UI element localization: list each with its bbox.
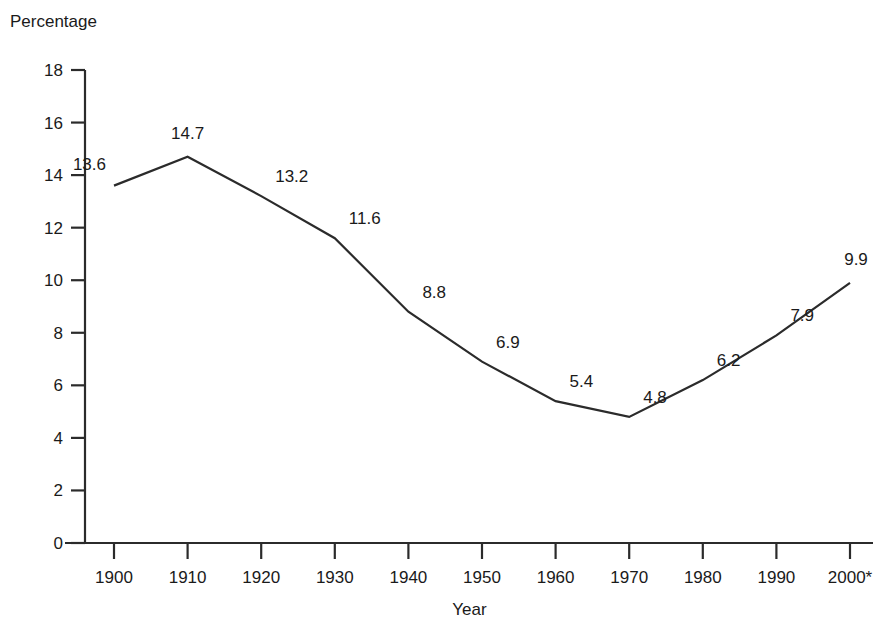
line-chart: Percentage Year 024681012141618 19001910… xyxy=(0,0,895,641)
x-tick-label-2000star: 2000* xyxy=(828,568,873,587)
y-tick-label-8: 8 xyxy=(54,324,63,343)
x-tick-label-1920: 1920 xyxy=(242,568,280,587)
data-point-label-1920: 13.2 xyxy=(275,167,308,186)
x-tick-label-1940: 1940 xyxy=(389,568,427,587)
x-tick-label-1950: 1950 xyxy=(463,568,501,587)
chart-plot-area: 024681012141618 190019101920193019401950… xyxy=(0,0,895,641)
y-tick-label-0: 0 xyxy=(54,534,63,553)
y-tick-label-16: 16 xyxy=(44,114,63,133)
y-tick-label-6: 6 xyxy=(54,376,63,395)
y-tick-label-18: 18 xyxy=(44,61,63,80)
data-point-label-1960: 5.4 xyxy=(570,372,594,391)
data-point-label-1930: 11.6 xyxy=(349,209,381,228)
data-point-labels: 13.614.713.211.68.86.95.44.86.27.99.9 xyxy=(73,124,868,407)
data-point-label-1940: 8.8 xyxy=(422,283,446,302)
data-point-label-1910: 14.7 xyxy=(171,124,204,143)
x-tick-label-1970: 1970 xyxy=(610,568,648,587)
y-axis-tick-labels: 024681012141618 xyxy=(44,61,63,553)
y-axis-ticks xyxy=(71,70,85,543)
x-tick-label-1900: 1900 xyxy=(95,568,133,587)
x-tick-label-1960: 1960 xyxy=(537,568,575,587)
data-point-label-1990: 7.9 xyxy=(790,306,814,325)
x-tick-label-1980: 1980 xyxy=(684,568,722,587)
data-series-line xyxy=(114,157,850,417)
y-tick-label-14: 14 xyxy=(44,166,63,185)
x-axis-ticks xyxy=(114,543,850,559)
data-point-label-1970: 4.8 xyxy=(643,388,667,407)
x-tick-label-1930: 1930 xyxy=(316,568,354,587)
y-tick-label-12: 12 xyxy=(44,219,63,238)
data-point-label-1900: 13.6 xyxy=(73,155,106,174)
y-tick-label-2: 2 xyxy=(54,481,63,500)
y-tick-label-4: 4 xyxy=(54,429,63,448)
x-tick-label-1910: 1910 xyxy=(169,568,207,587)
x-axis: 1900191019201930194019501960197019801990… xyxy=(65,543,873,587)
x-axis-tick-labels: 1900191019201930194019501960197019801990… xyxy=(95,568,873,587)
y-axis: 024681012141618 xyxy=(44,61,85,553)
data-point-label-2000star: 9.9 xyxy=(844,250,868,269)
data-point-label-1950: 6.9 xyxy=(496,333,520,352)
x-tick-label-1990: 1990 xyxy=(757,568,795,587)
data-point-label-1980: 6.2 xyxy=(717,351,741,370)
y-tick-label-10: 10 xyxy=(44,271,63,290)
